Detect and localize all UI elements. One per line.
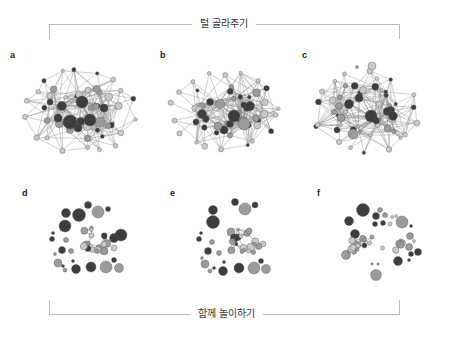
network-play-f <box>0 0 450 339</box>
